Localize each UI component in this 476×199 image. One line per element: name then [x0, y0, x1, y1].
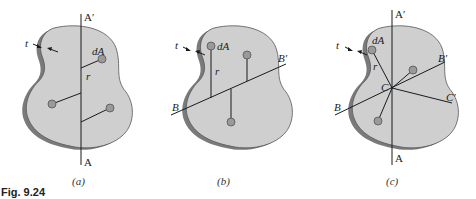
plate-c [348, 26, 458, 150]
label-r: r [86, 70, 91, 82]
label-b-prime: B′ [278, 52, 288, 64]
plate-face [26, 26, 132, 148]
label-b-prime: B′ [438, 52, 448, 64]
area-element-dot [374, 117, 382, 125]
area-element-dot [409, 66, 417, 74]
area-element-dot [48, 100, 56, 108]
area-element-dot [207, 42, 215, 50]
plate-b [182, 26, 292, 150]
caption-c: (c) [386, 175, 399, 188]
label-t: t [175, 39, 179, 51]
label-t: t [25, 37, 29, 49]
area-element-dot [106, 104, 114, 112]
area-element-dot [368, 46, 376, 54]
arrowhead-icon [348, 47, 353, 51]
label-da: dA [372, 34, 385, 46]
plate-a [22, 26, 132, 150]
label-da: dA [217, 40, 230, 52]
panel-c: A′ A t dA r C B B′ C′ (c) [334, 8, 458, 188]
label-b: B [172, 101, 179, 113]
arrowhead-icon [186, 47, 191, 51]
label-a: A [84, 156, 92, 168]
caption-a: (a) [72, 175, 85, 188]
caption-b: (b) [217, 175, 230, 188]
label-a-prime: A′ [84, 11, 94, 23]
label-c: C [381, 81, 389, 93]
label-t: t [336, 39, 340, 51]
label-c-prime: C′ [446, 91, 456, 103]
figure-label: Fig. 9.24 [1, 186, 46, 198]
label-r: r [215, 65, 220, 77]
plate-face [352, 26, 458, 148]
panel-b: t dA r B B′ (b) [171, 26, 292, 188]
label-da: dA [92, 45, 105, 57]
label-a: A [395, 152, 403, 164]
label-a-prime: A′ [395, 8, 405, 20]
label-b: B [334, 101, 341, 113]
figure-canvas: A′ A t dA r (a) t dA r B B′ (b) [0, 0, 476, 199]
panel-a: A′ A t dA r (a) [22, 11, 132, 188]
label-r: r [373, 60, 378, 72]
area-element-dot [227, 118, 235, 126]
arrowhead-icon [357, 50, 362, 54]
plate-face [186, 26, 292, 148]
area-element-dot [243, 51, 251, 59]
